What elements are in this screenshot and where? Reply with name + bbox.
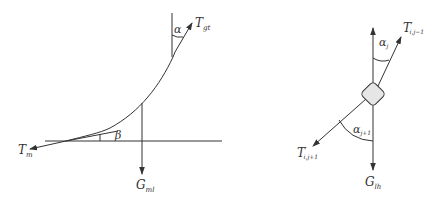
tension-upper-label: T′i,j−1 <box>403 21 424 36</box>
force-diagrams: α β Tgt Tm Gml αj αj+1 T′i,j−1 T′i,j+1 <box>0 0 436 201</box>
tangent-line <box>66 131 118 141</box>
alpha-label: α <box>174 23 182 36</box>
gravity-label: Gml <box>136 178 154 194</box>
right-diagram: αj αj+1 T′i,j−1 T′i,j+1 Glh <box>297 21 424 191</box>
alpha-j1-label: αj+1 <box>353 123 371 137</box>
alpha-j-arc <box>373 58 389 61</box>
beta-label: β <box>114 129 121 142</box>
gravity-label-right: Glh <box>365 175 381 191</box>
tension-bottom-label: Tm <box>18 143 33 159</box>
node <box>360 81 385 106</box>
cable-curve <box>66 52 175 141</box>
left-diagram: α β Tgt Tm Gml <box>18 13 222 194</box>
tension-lower-label: T′i,j+1 <box>297 146 318 161</box>
tension-bottom-arrow <box>30 141 66 149</box>
alpha-j-label: αj <box>379 36 388 50</box>
tension-top-label: Tgt <box>195 16 210 32</box>
